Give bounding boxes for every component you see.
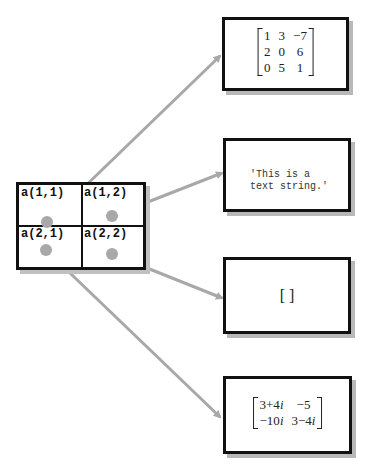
cell-a11[interactable]: a(1,1) [19, 185, 66, 201]
text-string: 'This is a text string.' [250, 169, 328, 193]
numeric-matrix-entry: 3 [275, 28, 290, 44]
complex-matrix-entry: 3+4i [256, 397, 288, 413]
box-complex-matrix: 3+4i−5−10i3−4i [223, 376, 352, 454]
complex-matrix-row: 3+4i−5 [256, 397, 320, 413]
numeric-matrix-entry: 0 [260, 60, 275, 76]
numeric-matrix-entry: 5 [275, 60, 290, 76]
box-text-string: 'This is a text string.' [223, 138, 351, 212]
numeric-matrix-entry: −7 [289, 28, 311, 44]
cell-array-grid: a(1,1) a(1,2) a(2,1) a(2,2) [16, 182, 146, 270]
numeric-matrix-entry: 1 [289, 60, 311, 76]
numeric-matrix-entry: 0 [275, 44, 290, 60]
cell-a12[interactable]: a(1,2) [82, 185, 129, 201]
complex-matrix-entry: 3−4i [288, 413, 320, 429]
numeric-matrix-entry: 2 [260, 44, 275, 60]
text-string-line-1: 'This is a [250, 169, 328, 181]
complex-matrix-entry: −5 [288, 397, 320, 413]
box-numeric-matrix: 13−7206051 [222, 17, 349, 91]
numeric-matrix-entry: 1 [260, 28, 275, 44]
text-string-line-2: text string.' [250, 181, 328, 193]
numeric-matrix-row: 051 [260, 60, 311, 76]
numeric-matrix: 13−7206051 [257, 28, 314, 80]
cell-array-diagram: a(1,1) a(1,2) a(2,1) a(2,2) 13−7206051 '… [0, 0, 374, 470]
complex-matrix-row: −10i3−4i [256, 413, 320, 429]
complex-matrix: 3+4i−5−10i3−4i [253, 397, 323, 433]
box-empty-array: [ ] [223, 257, 351, 334]
empty-array: [ ] [280, 287, 295, 305]
cell-a22[interactable]: a(2,2) [82, 226, 129, 242]
complex-matrix-entry: −10i [256, 413, 288, 429]
numeric-matrix-row: 206 [260, 44, 311, 60]
numeric-matrix-entry: 6 [289, 44, 311, 60]
numeric-matrix-row: 13−7 [260, 28, 311, 44]
cell-a21[interactable]: a(2,1) [19, 226, 66, 242]
arrow-a21 [46, 250, 220, 417]
